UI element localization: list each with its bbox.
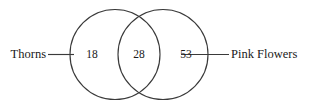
count-intersection: 28 (133, 48, 145, 60)
set-label-pink-flowers: Pink Flowers (231, 47, 297, 61)
count-left-only: 18 (86, 48, 98, 60)
circle-thorns (70, 10, 160, 100)
venn-diagram-canvas: 18 28 53 Thorns Pink Flowers (0, 0, 309, 106)
set-label-thorns: Thorns (11, 47, 47, 61)
count-right-only: 53 (180, 48, 192, 60)
venn-diagram: 18 28 53 Thorns Pink Flowers (0, 0, 309, 106)
